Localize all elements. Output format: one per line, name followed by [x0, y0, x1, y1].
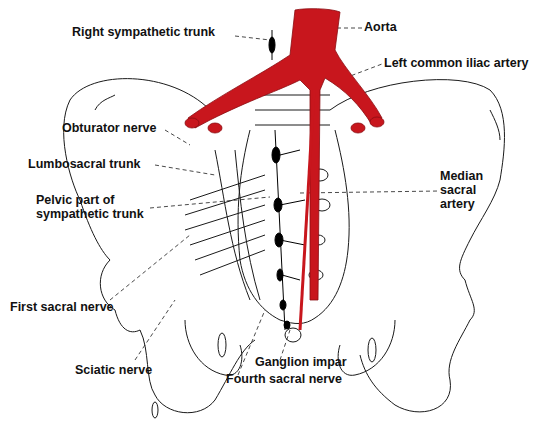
ischial-marker	[152, 402, 158, 418]
left-iliac-crest-inner	[490, 110, 500, 140]
label-median-sacral-line3: artery	[440, 197, 475, 211]
leader-first-sacral	[110, 235, 190, 300]
label-lumbosacral-trunk: Lumbosacral trunk	[28, 157, 141, 171]
leader-right-sympathetic-trunk	[235, 36, 270, 40]
label-left-common-iliac-artery: Left common iliac artery	[384, 56, 529, 70]
label-median-sacral-line2: sacral	[440, 183, 476, 197]
label-aorta: Aorta	[364, 20, 397, 34]
label-right-sympathetic-trunk: Right sympathetic trunk	[72, 25, 215, 39]
obturator-foramen-marker	[218, 333, 226, 357]
ganglion-impar-node	[284, 321, 290, 329]
nerve-plexus	[215, 150, 260, 300]
obturator-foramen-marker	[368, 338, 376, 362]
right-iliac-crest-inner	[95, 95, 115, 110]
coccyx	[285, 328, 301, 342]
label-fourth-sacral-nerve: Fourth sacral nerve	[226, 372, 342, 386]
leader-pelvic-part	[150, 197, 270, 208]
leader-median-sacral	[300, 191, 440, 193]
aorta	[188, 9, 382, 300]
label-pelvic-part-line1: Pelvic part of	[36, 193, 115, 207]
label-ganglion-impar: Ganglion impar	[255, 355, 347, 369]
leader-lumbosacral	[155, 165, 215, 175]
piriformis-hatching	[185, 175, 265, 275]
anatomy-figure: Right sympathetic trunk Aorta Left commo…	[0, 0, 547, 432]
label-median-sacral-line1: Median	[440, 169, 483, 183]
leader-sciatic	[135, 300, 175, 360]
label-obturator-nerve: Obturator nerve	[62, 121, 156, 135]
sacrum-outline	[238, 130, 349, 324]
label-pelvic-part-line2: sympathetic trunk	[36, 207, 144, 221]
label-sciatic-nerve: Sciatic nerve	[75, 363, 152, 377]
leader-obturator	[165, 130, 190, 145]
label-first-sacral-nerve: First sacral nerve	[10, 300, 114, 314]
